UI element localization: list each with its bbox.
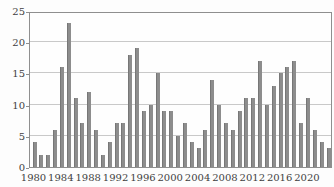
bar-2007	[217, 105, 221, 167]
y-tick-label-15: 15	[0, 69, 25, 79]
bar-1991	[108, 142, 112, 167]
bar-2023	[327, 148, 331, 167]
y-tick-label-5: 5	[0, 132, 25, 142]
bar-1983	[53, 130, 57, 167]
x-tick-label-2020: 2020	[291, 172, 323, 183]
bar-2005	[203, 130, 207, 167]
bar-1988	[87, 92, 91, 167]
bar-1993	[121, 123, 125, 167]
bar-2011	[244, 98, 248, 167]
bar-2022	[320, 142, 324, 167]
bar-2014	[265, 105, 269, 167]
y-tick-label-25: 25	[0, 7, 25, 17]
bar-2009	[231, 130, 235, 167]
bar-2002	[183, 123, 187, 167]
bar-1981	[39, 155, 43, 167]
bar-1997	[149, 105, 153, 167]
bar-1996	[142, 111, 146, 167]
bar-1989	[94, 130, 98, 167]
bar-2018	[292, 61, 296, 167]
y-tick-mark-20	[26, 43, 29, 44]
bar-2003	[190, 142, 194, 167]
bar-1985	[67, 23, 71, 167]
bar-2012	[251, 98, 255, 167]
bar-1986	[74, 98, 78, 167]
bar-1980	[33, 142, 37, 167]
bar-2016	[279, 73, 283, 167]
plot-area	[29, 12, 332, 168]
bar-1987	[80, 123, 84, 167]
bar-2000	[169, 111, 173, 167]
bar-2020	[306, 98, 310, 167]
bar-2021	[313, 130, 317, 167]
bar-1992	[115, 123, 119, 167]
bar-chart: 0510152025 19801984198819921996200020042…	[0, 0, 334, 187]
bar-1990	[101, 155, 105, 167]
y-tick-mark-0	[26, 168, 29, 169]
y-tick-mark-10	[26, 106, 29, 107]
y-tick-mark-25	[26, 12, 29, 13]
y-tick-label-20: 20	[0, 38, 25, 48]
bar-2010	[238, 111, 242, 167]
bar-2013	[258, 61, 262, 167]
bar-1994	[128, 55, 132, 167]
bar-1999	[162, 111, 166, 167]
bar-1998	[156, 73, 160, 167]
bar-1982	[46, 155, 50, 167]
y-tick-mark-5	[26, 137, 29, 138]
bar-2015	[272, 86, 276, 167]
bar-1984	[60, 67, 64, 167]
bar-2008	[224, 123, 228, 167]
bar-1995	[135, 48, 139, 167]
bar-2004	[197, 148, 201, 167]
bar-2017	[285, 67, 289, 167]
bar-2019	[299, 123, 303, 167]
y-tick-mark-15	[26, 74, 29, 75]
y-tick-label-10: 10	[0, 101, 25, 111]
bar-2006	[210, 80, 214, 167]
gridline-y-20	[30, 41, 331, 42]
bar-2001	[176, 136, 180, 167]
